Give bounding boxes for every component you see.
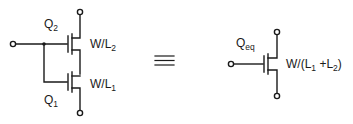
q2-source [72, 50, 80, 74]
transistor-q1 [68, 72, 83, 116]
equivalence-symbol [155, 56, 174, 65]
drain-terminal-right [274, 29, 279, 34]
source-terminal-right [274, 93, 279, 98]
input-terminal-left [10, 41, 15, 46]
gate-wire-q1 [44, 44, 67, 82]
label-size-qeq: W/(L1 +L2) [286, 57, 342, 73]
q1-source [72, 88, 80, 110]
label-q2: Q2 [44, 17, 58, 33]
qeq-source [268, 70, 277, 93]
label-size-q2: W/L2 [90, 37, 116, 53]
transistor-q2 [68, 9, 83, 74]
labels: Q2 W/L2 W/L1 Q1 Qeq W/(L1 +L2) [44, 17, 342, 109]
label-qeq: Qeq [236, 36, 255, 52]
label-q1: Q1 [44, 93, 58, 109]
q2-drain [72, 15, 80, 38]
circuit-diagram: Q2 W/L2 W/L1 Q1 Qeq W/(L1 +L2) [0, 0, 353, 124]
qeq-drain [268, 35, 277, 58]
input-terminal-right [228, 61, 233, 66]
source-terminal-left [77, 110, 82, 115]
label-size-q1: W/L1 [90, 77, 116, 93]
drain-terminal-left [77, 9, 82, 14]
